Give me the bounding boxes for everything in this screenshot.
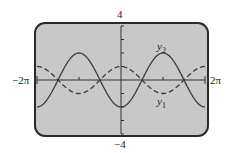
y1-label: y1 <box>157 95 166 110</box>
x-max-label: 2π <box>210 74 221 86</box>
y-max-label: 4 <box>117 8 123 20</box>
y-min-label: −4 <box>114 138 126 150</box>
y2-label: y2 <box>157 40 166 55</box>
x-min-label: −2π <box>12 74 29 86</box>
graph-screen <box>0 0 234 153</box>
